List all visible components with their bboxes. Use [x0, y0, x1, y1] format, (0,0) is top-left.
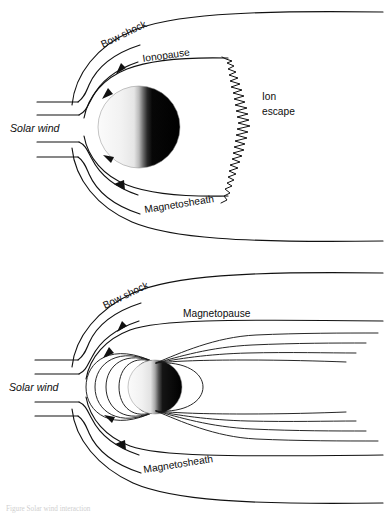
figure-root: Bow shock Ionopause Ion escape Solar win…: [0, 0, 385, 514]
magnetopause-upper-curve: [86, 320, 383, 379]
magnetopause-lower-curve: [86, 397, 383, 456]
bow-shock-lower-curve: [72, 409, 383, 503]
flow-arrow-upper-inner: [103, 347, 114, 358]
label-solar-wind: Solar wind: [9, 381, 60, 393]
tail-field-line-south-4: [156, 411, 346, 414]
label-magnetopause: Magnetopause: [183, 308, 251, 319]
label-magnetosheath: Magnetosheath: [144, 193, 215, 215]
label-bow-shock: Bow shock: [101, 279, 151, 311]
label-solar-wind: Solar wind: [10, 122, 61, 134]
tail-field-line-north-4: [156, 360, 346, 363]
panel-magnetized-planet: Bow shock Magnetopause Solar wind Magnet…: [0, 257, 385, 507]
tail-field-line-south-1: [156, 411, 378, 441]
label-ion-escape-line2: escape: [262, 106, 295, 117]
panel-bottom-canvas: Bow shock Magnetopause Solar wind Magnet…: [0, 257, 385, 507]
diverted-flow-lower-outer: [78, 416, 141, 473]
label-ionopause: Ionopause: [142, 46, 191, 64]
flow-arrow-lower-inner: [104, 415, 115, 423]
label-ion-escape-line1: Ion: [262, 91, 276, 102]
tail-field-line-north-1: [156, 333, 378, 363]
figure-caption: Figure Solar wind interaction: [6, 505, 381, 513]
diverted-flow-lower-inner: [79, 402, 139, 455]
flow-arrow-upper-outer: [116, 63, 126, 74]
panel-top-canvas: Bow shock Ionopause Ion escape Solar win…: [0, 0, 385, 250]
planet-disk: [98, 86, 180, 168]
label-magnetosheath: Magnetosheath: [143, 453, 214, 475]
planet-disk: [128, 360, 182, 414]
ion-escape-waveform: [221, 57, 250, 203]
panel-unmagnetized-planet: Bow shock Ionopause Ion escape Solar win…: [0, 0, 385, 250]
label-bow-shock: Bow shock: [99, 18, 149, 50]
flow-arrow-upper-outer: [117, 321, 127, 332]
